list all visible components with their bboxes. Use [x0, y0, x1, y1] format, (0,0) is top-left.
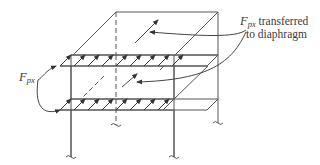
transfer-label-line2: to diaphragm	[246, 28, 308, 40]
floor-left-hidden-edge	[81, 76, 104, 99]
force-subscript: px	[27, 75, 35, 85]
transfer-label-line1: transferred	[256, 15, 309, 27]
force-label: Fpx	[19, 71, 35, 84]
frame-diagram: Fpx transferred to diaphragm Fpx	[0, 0, 320, 165]
transfer-arrows	[122, 20, 158, 87]
column-break-symbols	[66, 122, 223, 159]
force-subscript: px	[248, 19, 256, 29]
force-symbol: F	[240, 14, 248, 28]
force-symbol: F	[19, 70, 27, 84]
floor-right-edge	[174, 66, 208, 99]
transfer-label: Fpx transferred to diaphragm	[240, 15, 308, 40]
